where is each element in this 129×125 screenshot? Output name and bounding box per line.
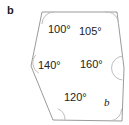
angle-label-unknown: b <box>104 97 110 108</box>
angle-label-right-upper: 160° <box>80 59 103 70</box>
angle-label-bottom-left: 120° <box>64 92 87 103</box>
angle-label-left-middle: 140° <box>38 60 61 71</box>
figure-canvas: b 100° 105° 140° 160° 120° b <box>0 0 129 125</box>
angle-label-top-right: 105° <box>79 26 102 37</box>
angle-label-top-left: 100° <box>48 24 71 35</box>
